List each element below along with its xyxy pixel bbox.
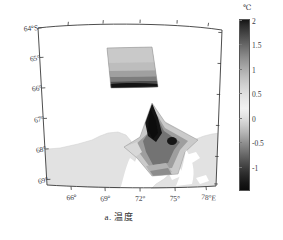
colorbar-tick-label-0: 0	[252, 115, 256, 124]
temperature-map-figure: 64°S 65° 66° 67° 68° 69° 66° 69° 72° 75°…	[0, 0, 283, 240]
colorbar-tick-label-1: 1	[252, 66, 256, 75]
colorbar-tick-mark-0_5	[239, 93, 242, 94]
lon-label-72: 72°	[125, 193, 155, 203]
colorbar-tick-label-neg0_5: -0.5	[252, 139, 264, 148]
colorbar-tick-mark-0	[239, 118, 242, 119]
colorbar-tick-label-1_5: 1.5	[252, 41, 261, 50]
colorbar-tick-label-2: 2	[252, 17, 256, 26]
colorbar-tick-mark-neg1	[239, 167, 242, 168]
colorbar-tick-label-neg1: -1	[252, 164, 258, 173]
colorbar-tick-mark-1_5	[239, 44, 242, 45]
colorbar-unit-label: ℃	[243, 3, 251, 12]
lon-label-75: 75°	[160, 193, 190, 203]
colorbar-tick-label-0_5: 0.5	[252, 90, 261, 99]
colorbar-tick-mark-1	[239, 69, 242, 70]
cold-core-blob	[167, 137, 177, 145]
figure-caption: a. 温度	[0, 210, 238, 223]
map-interior	[30, 18, 230, 196]
colorbar-tick-mark-2	[239, 20, 242, 21]
colorbar-tick-mark-neg0_5	[239, 142, 242, 143]
